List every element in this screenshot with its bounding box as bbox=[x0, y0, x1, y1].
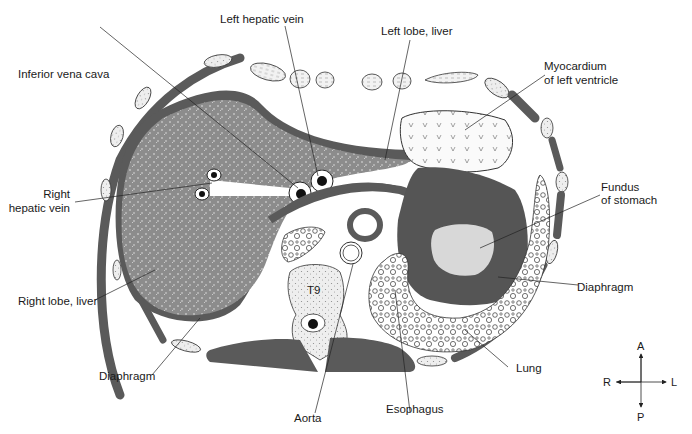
label-left-lobe-liver: Left lobe, liver bbox=[381, 24, 453, 38]
label-esophagus: Esophagus bbox=[386, 402, 444, 416]
costal-cartilages bbox=[249, 60, 478, 90]
label-right-lobe-liver: Right lobe, liver bbox=[18, 294, 97, 308]
label-lung: Lung bbox=[516, 361, 542, 375]
compass-anterior: A bbox=[637, 340, 644, 352]
label-inferior-vena-cava: Inferior vena cava bbox=[18, 67, 109, 81]
stomach-fundus-contents bbox=[431, 224, 494, 276]
right-lung bbox=[282, 227, 325, 262]
label-myocardium-line2: of left ventricle bbox=[544, 73, 618, 87]
esophagus bbox=[350, 211, 380, 239]
compass-right: R bbox=[603, 376, 611, 388]
label-diaphragm-left-side: Diaphragm bbox=[577, 280, 633, 294]
label-myocardium-line1: Myocardium bbox=[544, 59, 607, 73]
myocardium-left-ventricle bbox=[400, 111, 512, 172]
label-right-hepatic-vein-line1: Right bbox=[0, 187, 70, 201]
label-aorta: Aorta bbox=[294, 411, 322, 425]
label-diaphragm-right-side: Diaphragm bbox=[99, 369, 155, 383]
label-left-hepatic-vein: Left hepatic vein bbox=[220, 12, 304, 26]
compass-left: L bbox=[671, 376, 677, 388]
label-fundus-line1: Fundus bbox=[601, 180, 639, 194]
label-vertebra-t9: T9 bbox=[307, 283, 320, 297]
label-fundus-line2: of stomach bbox=[601, 193, 657, 207]
compass-posterior: P bbox=[637, 411, 644, 423]
liver bbox=[122, 100, 410, 315]
label-right-hepatic-vein-line2: hepatic vein bbox=[0, 201, 70, 215]
orientation-compass bbox=[616, 354, 666, 407]
